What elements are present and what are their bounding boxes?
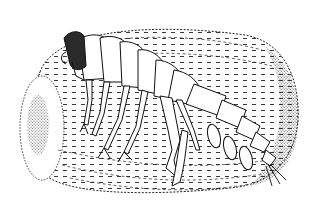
illustration: [0, 0, 317, 203]
amphipod-in-tube-figure: [0, 0, 317, 203]
tube-icon: [20, 29, 299, 192]
